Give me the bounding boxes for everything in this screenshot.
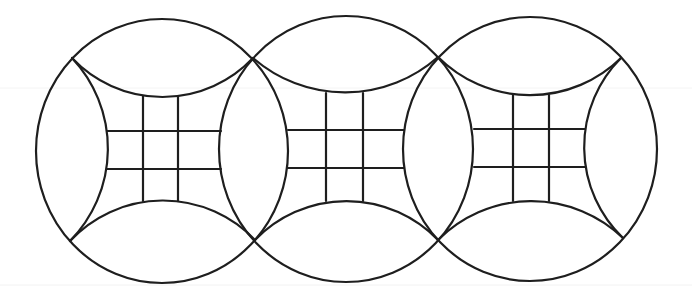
circle-1-top-arc [72, 58, 253, 97]
circle-2-top-arc [253, 57, 438, 92]
circle-2-bottom-arc [255, 201, 438, 240]
circle-2 [219, 16, 473, 282]
circle-3 [403, 17, 657, 281]
circle-3-top-arc [438, 57, 621, 95]
three-circle-grid-diagram [0, 0, 692, 302]
circle-3-right-arc [584, 58, 623, 238]
outer-circles [36, 16, 657, 283]
circle-3-bottom-arc [438, 201, 623, 240]
circle-1-bottom-arc [70, 201, 255, 241]
inner-grids [107, 93, 585, 201]
circle-2-grid [288, 93, 404, 201]
inner-concave-arcs [70, 57, 623, 241]
circle-1-grid [107, 96, 221, 201]
circle-1-left-arc [70, 58, 108, 241]
circle-3-grid [474, 95, 585, 201]
